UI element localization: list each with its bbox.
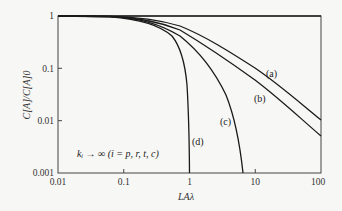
y-tick-label: 0.01	[37, 116, 54, 126]
y-ticks	[58, 68, 62, 120]
curve-label-b: (b)	[254, 93, 266, 105]
y-tick-label: 1	[49, 11, 54, 21]
x-axis-label: LAλ	[177, 191, 195, 202]
annotation: kᵢ → ∞ (i = p, r, t, c)	[77, 148, 160, 160]
x-tick-label: 0.01	[50, 177, 67, 187]
x-tick-label: 1	[187, 177, 192, 187]
curve-label-a: (a)	[266, 68, 277, 80]
curve-label-d: (d)	[192, 136, 204, 148]
chart-svg: 1 0.1 0.01 0.001 0.01 0.1 1 10 100 LAλ C…	[0, 0, 342, 211]
x-tick-label: 100	[311, 177, 326, 187]
curve-b	[58, 16, 321, 136]
x-tick-label: 10	[251, 177, 261, 187]
y-axis-label: C[A]/C[A]0	[21, 71, 32, 120]
curve-a	[58, 16, 321, 120]
x-tick-label: 0.1	[118, 177, 130, 187]
y-tick-label: 0.1	[42, 64, 54, 74]
curve-label-c: (c)	[220, 116, 231, 128]
